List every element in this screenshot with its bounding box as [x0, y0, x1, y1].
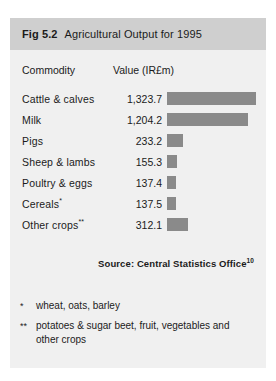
value-bar	[167, 218, 188, 231]
table-row: Pigs233.2	[22, 130, 256, 151]
bar-cell	[167, 109, 256, 130]
column-header-value: Value (IR£m)	[113, 64, 174, 76]
table-area: Commodity Value (IR£m) Cattle & calves1,…	[10, 50, 266, 235]
footnotes: *wheat, oats, barley**potatoes & sugar b…	[10, 269, 266, 347]
table-row: Sheep & lambs155.3	[22, 151, 256, 172]
value-bar	[167, 134, 183, 147]
source-text: Source: Central Statistics Office	[98, 258, 246, 269]
commodity-label: Cattle & calves	[22, 93, 110, 105]
figure-panel: Fig 5.2 Agricultural Output for 1995 Com…	[10, 18, 266, 368]
table-header-row: Commodity Value (IR£m)	[22, 50, 256, 88]
commodity-label: Other crops**	[22, 218, 110, 231]
value-bar	[167, 92, 256, 105]
footnote-text: wheat, oats, barley	[36, 299, 254, 313]
footnote: **potatoes & sugar beet, fruit, vegetabl…	[20, 319, 254, 347]
bar-cell	[167, 172, 256, 193]
value-bar	[167, 155, 177, 168]
commodity-label: Sheep & lambs	[22, 156, 110, 168]
commodity-value: 137.5	[110, 198, 162, 210]
bar-cell	[167, 214, 256, 235]
value-bar	[167, 197, 176, 210]
source-note: Source: Central Statistics Office10	[10, 235, 266, 269]
commodity-value: 233.2	[110, 135, 162, 147]
table-row: Cereals*137.5	[22, 193, 256, 214]
table-row: Cattle & calves1,323.7	[22, 88, 256, 109]
table-rows: Cattle & calves1,323.7Milk1,204.2Pigs233…	[22, 88, 256, 235]
footnote-marker: **	[20, 319, 36, 347]
commodity-value: 1,204.2	[110, 114, 162, 126]
value-bar	[167, 176, 176, 189]
footnote-text: potatoes & sugar beet, fruit, vegetables…	[36, 319, 254, 347]
table-row: Other crops**312.1	[22, 214, 256, 235]
value-bar	[167, 113, 248, 126]
commodity-value: 155.3	[110, 156, 162, 168]
figure-title: Agricultural Output for 1995	[65, 28, 202, 40]
commodity-value: 137.4	[110, 177, 162, 189]
bar-cell	[167, 193, 256, 214]
source-superscript: 10	[247, 257, 254, 264]
bar-cell	[167, 130, 256, 151]
table-row: Milk1,204.2	[22, 109, 256, 130]
footnote-marker-icon: *	[59, 197, 62, 204]
footnote: *wheat, oats, barley	[20, 299, 254, 313]
bar-cell	[167, 151, 256, 172]
commodity-label: Milk	[22, 114, 110, 126]
commodity-label: Cereals*	[22, 197, 110, 210]
bar-cell	[167, 88, 256, 109]
footnote-marker-icon: **	[79, 218, 84, 225]
table-row: Poultry & eggs137.4	[22, 172, 256, 193]
figure-number: Fig 5.2	[22, 28, 58, 40]
footnote-marker: *	[20, 299, 36, 313]
commodity-label: Poultry & eggs	[22, 177, 110, 189]
commodity-value: 312.1	[110, 219, 162, 231]
commodity-label: Pigs	[22, 135, 110, 147]
figure-header: Fig 5.2 Agricultural Output for 1995	[10, 18, 266, 50]
column-header-commodity: Commodity	[22, 64, 102, 76]
commodity-value: 1,323.7	[110, 93, 162, 105]
